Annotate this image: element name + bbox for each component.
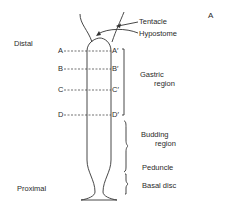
section-d-right: D′ bbox=[112, 111, 119, 119]
gastric-bracket bbox=[122, 49, 124, 115]
section-c-left: C bbox=[58, 86, 63, 94]
tentacle-label: Tentacle bbox=[139, 18, 167, 26]
section-a-left: A bbox=[58, 47, 63, 55]
budding-bracket bbox=[124, 121, 128, 172]
hypostome-arrowhead bbox=[96, 31, 101, 36]
section-d-left: D bbox=[58, 111, 63, 119]
tentacle-pointer bbox=[118, 22, 138, 26]
panel-label: A bbox=[208, 12, 213, 20]
hypostome-pointer bbox=[98, 29, 138, 34]
budding-region-line2: region bbox=[155, 140, 176, 148]
basal-disc-label: Basal disc bbox=[142, 182, 176, 190]
proximal-label: Proximal bbox=[17, 185, 46, 193]
body-outline bbox=[81, 38, 117, 200]
budding-region-line1: Budding bbox=[141, 131, 169, 139]
section-b-right: B′ bbox=[112, 65, 118, 73]
left-tentacle bbox=[80, 14, 92, 42]
section-c-right: C′ bbox=[112, 86, 119, 94]
gastric-region-line2: region bbox=[154, 80, 175, 88]
peduncle-label: Peduncle bbox=[142, 164, 173, 172]
peduncle-bracket bbox=[125, 174, 128, 194]
hydra-body-diagram bbox=[0, 0, 227, 203]
distal-label: Distal bbox=[14, 40, 33, 48]
gastric-region-line1: Gastric bbox=[140, 71, 164, 79]
section-a-right: A′ bbox=[112, 47, 118, 55]
section-b-left: B bbox=[58, 65, 63, 73]
hypostome-label: Hypostome bbox=[139, 30, 177, 38]
